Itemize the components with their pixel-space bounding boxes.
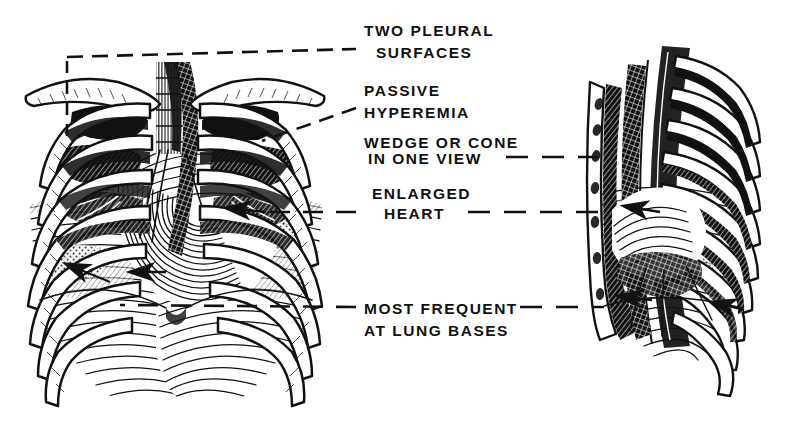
medical-illustration-figure: TWO PLEURAL SURFACES PASSIVE HYPEREMIA W… [0, 0, 800, 428]
label-line: IN ONE VIEW [368, 150, 482, 167]
label-line: WEDGE OR CONE [364, 134, 519, 151]
label-line: SURFACES [376, 44, 472, 61]
label-line: AT LUNG BASES [364, 322, 509, 339]
label-line: ENLARGED [372, 185, 471, 202]
label-line: HEART [384, 205, 445, 222]
label-line: TWO PLEURAL [364, 22, 494, 39]
label-line: MOST FREQUENT [364, 300, 518, 317]
illustration-canvas: TWO PLEURAL SURFACES PASSIVE HYPEREMIA W… [0, 0, 800, 428]
label-line: PASSIVE [364, 82, 441, 99]
label-line: HYPEREMIA [364, 104, 470, 121]
